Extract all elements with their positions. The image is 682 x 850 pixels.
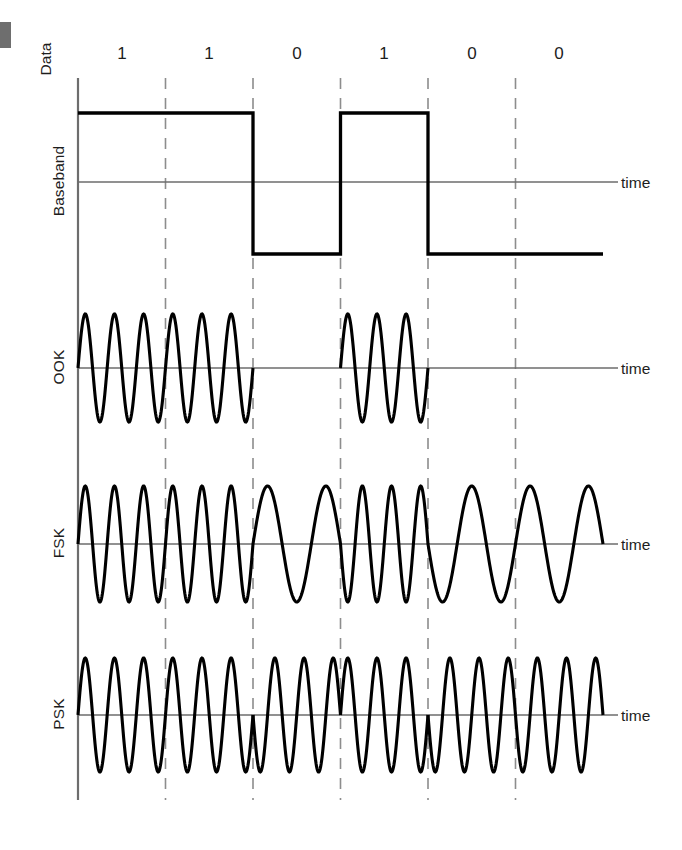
bit-label-0: 1	[102, 44, 142, 64]
waveform-canvas	[0, 0, 682, 850]
waveform-ook-burst-3	[341, 314, 429, 422]
waveform-psk-seg-4	[428, 658, 516, 772]
time-label-ook: time	[621, 360, 650, 378]
bit-label-1: 1	[189, 44, 229, 64]
row-label-baseband: Baseband	[50, 131, 68, 231]
bit-label-2: 0	[277, 44, 317, 64]
page-edge-mark	[0, 22, 11, 48]
time-label-fsk: time	[621, 536, 650, 554]
row-label-fsk: FSK	[50, 513, 68, 573]
waveform-psk-seg-0	[78, 658, 166, 772]
waveform-baseband	[78, 113, 603, 254]
bit-label-3: 1	[364, 44, 404, 64]
time-label-psk: time	[621, 707, 650, 725]
bit-label-4: 0	[452, 44, 492, 64]
time-label-baseband: time	[621, 174, 650, 192]
row-label-data: Data	[37, 29, 55, 89]
waveform-psk-seg-5	[516, 658, 604, 772]
waveform-psk-seg-2	[253, 658, 341, 772]
row-label-psk: PSK	[50, 684, 68, 744]
bit-label-5: 0	[539, 44, 579, 64]
row-label-ook: OOK	[50, 337, 68, 397]
waveform-psk-seg-3	[341, 658, 429, 772]
waveform-ook-burst-0	[78, 314, 166, 422]
waveform-ook-burst-1	[166, 314, 254, 422]
modulation-diagram: Data 1 1 0 1 0 0 Baseband OOK FSK PSK ti…	[0, 0, 682, 850]
waveform-psk-seg-1	[166, 658, 254, 772]
axes	[78, 78, 618, 800]
